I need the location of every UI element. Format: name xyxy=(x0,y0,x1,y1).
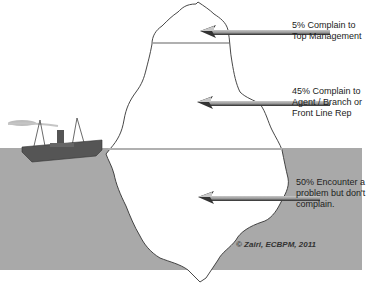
label-front-line: 45% Complain to Agent / Branch or Front … xyxy=(292,86,362,119)
label-line: 45% Complain to xyxy=(292,86,362,97)
label-line: Top Management xyxy=(292,31,362,42)
label-line: Agent / Branch or xyxy=(292,97,362,108)
label-line: complain. xyxy=(296,199,365,210)
label-line: 5% Complain to xyxy=(292,20,362,31)
label-line: 50% Encounter a xyxy=(296,177,365,188)
label-silent: 50% Encounter a problem but don't compla… xyxy=(296,177,365,210)
label-line: Front Line Rep xyxy=(292,108,362,119)
credit-text: © Zairi, ECBPM, 2011 xyxy=(236,240,316,249)
label-line: problem but don't xyxy=(296,188,365,199)
label-top-management: 5% Complain to Top Management xyxy=(292,20,362,42)
